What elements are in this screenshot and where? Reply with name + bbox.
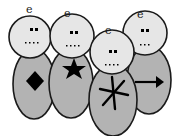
figures-diagram: e e e e [0,0,179,136]
figure-4-label: e [137,8,144,21]
figure-2-label: e [64,7,71,20]
figure-3-label: e [105,24,112,37]
figure-2-head: e [50,7,94,58]
figure-1-label: e [26,3,33,16]
figure-1-head: e [9,3,51,58]
